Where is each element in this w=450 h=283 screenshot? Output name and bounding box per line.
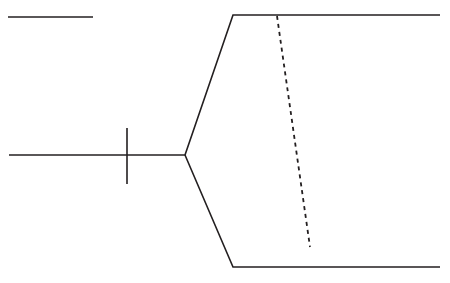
diagram-canvas [0,0,450,283]
tree-diagram-svg [0,0,450,283]
diagram-background [0,0,450,283]
